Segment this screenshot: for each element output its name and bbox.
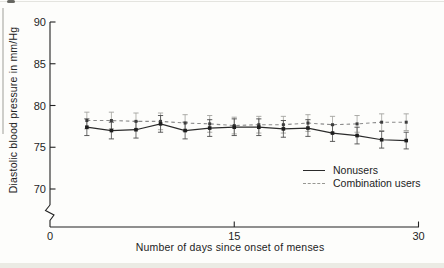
y-tick-label: 85	[20, 59, 46, 70]
y-tick-label: 75	[20, 142, 46, 153]
scan-artifact-top-line	[0, 1, 444, 2]
y-tick-label: 70	[20, 184, 46, 195]
data-point-combination-users	[134, 120, 137, 123]
data-point-nonusers	[355, 134, 359, 138]
data-point-nonusers	[306, 126, 310, 130]
data-point-nonusers	[380, 138, 384, 142]
data-point-combination-users	[184, 122, 187, 125]
chart-canvas	[0, 0, 444, 268]
data-point-nonusers	[85, 125, 89, 129]
scan-artifact-speck	[7, 0, 15, 3]
data-point-combination-users	[356, 122, 359, 125]
y-tick-label: 80	[20, 101, 46, 112]
figure: Diastolic blood pressure in mm/Hg Number…	[0, 0, 444, 268]
legend: Nonusers Combination users	[303, 164, 421, 190]
x-tick-label: 0	[37, 231, 63, 242]
data-point-combination-users	[405, 121, 408, 124]
dashed-line-swatch	[303, 183, 325, 184]
data-point-combination-users	[110, 119, 113, 122]
data-point-nonusers	[232, 125, 236, 129]
x-axis-title: Number of days since onset of menses	[90, 241, 370, 253]
legend-item-nonusers: Nonusers	[303, 164, 421, 176]
data-point-combination-users	[208, 122, 211, 125]
x-tick-label: 30	[406, 231, 432, 242]
data-point-combination-users	[306, 122, 309, 125]
data-point-nonusers	[208, 126, 212, 130]
data-point-combination-users	[282, 123, 285, 126]
y-axis-title: Diastolic blood pressure in mm/Hg	[7, 27, 19, 194]
x-tick-label: 15	[221, 231, 247, 242]
legend-label: Combination users	[333, 177, 421, 189]
data-point-combination-users	[85, 119, 88, 122]
scan-artifact-left-streak	[2, 8, 4, 134]
data-point-nonusers	[331, 131, 335, 135]
scan-artifact-bottom-band	[0, 263, 444, 268]
data-point-nonusers	[183, 129, 187, 133]
data-point-combination-users	[331, 123, 334, 126]
legend-item-combination-users: Combination users	[303, 177, 421, 189]
data-point-nonusers	[110, 129, 114, 133]
y-tick-label: 90	[20, 17, 46, 28]
data-point-nonusers	[404, 139, 408, 143]
y-axis-break	[46, 205, 55, 227]
data-point-nonusers	[134, 128, 138, 132]
legend-label: Nonusers	[333, 164, 378, 176]
data-point-nonusers	[257, 125, 261, 129]
solid-line-swatch	[303, 170, 325, 171]
data-point-nonusers	[159, 122, 163, 126]
data-point-combination-users	[380, 121, 383, 124]
data-point-nonusers	[282, 127, 286, 131]
